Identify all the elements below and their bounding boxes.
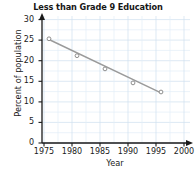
- x-axis-arrow-icon: [186, 140, 193, 146]
- y-axis-label: Percent of population: [13, 17, 23, 129]
- data-point: [103, 67, 107, 71]
- y-tick-label: 0: [14, 138, 34, 147]
- data-point: [75, 54, 79, 58]
- axis-lines: [42, 17, 189, 143]
- trend-line: [49, 40, 161, 93]
- grid-lines: [42, 16, 190, 143]
- x-axis-label: Year: [40, 158, 190, 168]
- data-point: [159, 90, 163, 94]
- chart-figure: Less than Grade 9 Education: [0, 0, 196, 171]
- data-point: [47, 37, 51, 41]
- x-tick-label: 2000: [167, 147, 196, 156]
- data-point: [131, 81, 135, 85]
